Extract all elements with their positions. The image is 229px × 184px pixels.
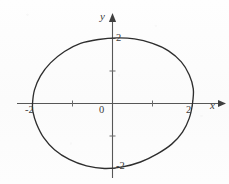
y-tick-label-neg2: -2 [116, 161, 125, 172]
y-tick-label-pos2: 2 [116, 33, 121, 44]
x-tick-label-pos2: 2 [186, 105, 191, 116]
x-axis-arrowhead [218, 100, 226, 107]
origin-label: 0 [99, 105, 104, 116]
y-axis-label: y [100, 11, 105, 22]
figure-container: y x -2 2 2 -2 0 [0, 0, 229, 184]
y-axis-arrowhead [109, 13, 116, 22]
coordinate-plot [0, 0, 229, 184]
x-axis-label: x [210, 100, 215, 111]
x-tick-label-neg2: -2 [25, 105, 34, 116]
